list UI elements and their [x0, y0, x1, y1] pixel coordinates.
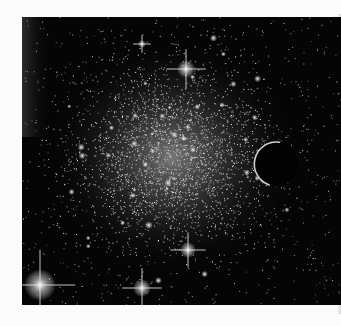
caption-text [22, 318, 322, 326]
star-field [22, 17, 341, 305]
planet [254, 142, 298, 186]
star-cluster-illustration [22, 17, 341, 305]
page-edge [337, 14, 341, 314]
